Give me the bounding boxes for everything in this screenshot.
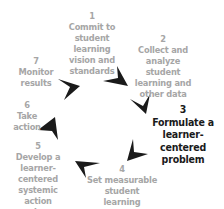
step-label: Formulate a learner-centered problem bbox=[142, 116, 224, 166]
step-number: 5 bbox=[4, 140, 72, 151]
step-3: 3 Formulate a learner-centered problem bbox=[142, 103, 224, 166]
step-label: Take action bbox=[2, 110, 52, 132]
step-label: Commit to student learning vision and st… bbox=[58, 21, 126, 76]
step-number: 6 bbox=[2, 99, 52, 110]
step-4: 4 Set measurable student learning goals bbox=[86, 163, 158, 209]
step-number: 2 bbox=[128, 33, 198, 44]
step-label: Set measurable student learning goals bbox=[86, 174, 158, 209]
step-label: Collect and analyze student learning and… bbox=[128, 44, 198, 99]
step-number: 1 bbox=[58, 10, 126, 21]
step-7: 7 Monitor results bbox=[4, 55, 68, 88]
step-label: Monitor results bbox=[4, 66, 68, 88]
step-number: 3 bbox=[142, 103, 224, 116]
step-6: 6 Take action bbox=[2, 99, 52, 132]
step-2: 2 Collect and analyze student learning a… bbox=[128, 33, 198, 99]
step-number: 7 bbox=[4, 55, 68, 66]
step-5: 5 Develop a learner-centered systemic ac… bbox=[4, 140, 72, 209]
step-label: Develop a learner-centered systemic acti… bbox=[4, 151, 72, 209]
step-number: 4 bbox=[86, 163, 158, 174]
step-1: 1 Commit to student learning vision and … bbox=[58, 10, 126, 76]
